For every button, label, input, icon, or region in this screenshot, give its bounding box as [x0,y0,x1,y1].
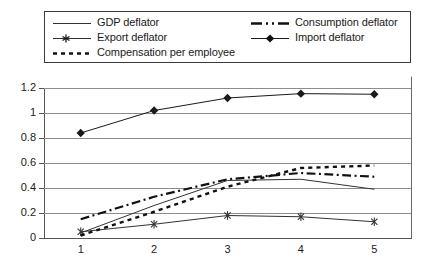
marker-diamond-icon [297,89,305,97]
series-import-deflator [77,89,379,137]
marker-diamond-icon [223,94,231,102]
marker-diamond-icon [370,90,378,98]
series-export-deflator [78,211,378,236]
series-line [81,166,375,236]
marker-diamond-icon [150,106,158,114]
marker-diamond-icon [77,129,85,137]
line-chart-figure: GDP deflator Export deflator [0,0,435,269]
series-line [81,179,375,233]
chart-series-layer [0,0,435,269]
series-gdp-deflator [81,179,375,233]
series-compensation-per-employee [81,166,375,236]
